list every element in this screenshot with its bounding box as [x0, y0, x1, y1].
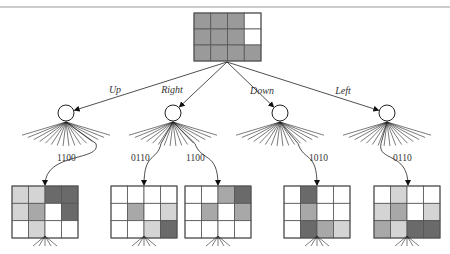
grid-cell — [194, 13, 211, 29]
grid-cell — [185, 221, 202, 238]
grid-cell — [211, 29, 228, 45]
grid-cell — [128, 221, 145, 238]
grid-cell — [284, 186, 301, 203]
child-left — [374, 186, 440, 238]
grid-cell — [391, 203, 408, 220]
fan-line — [66, 122, 98, 140]
grid-cell — [317, 221, 334, 238]
tile-code-label: 1100 — [57, 153, 76, 163]
grid-cell — [29, 203, 46, 220]
grid-cell — [185, 186, 202, 203]
grid-cell — [284, 203, 301, 220]
grid-cell — [161, 203, 178, 220]
chance-node-circle — [272, 105, 288, 121]
grid-cell — [235, 203, 252, 220]
grid-cell — [284, 221, 301, 238]
child-right-a — [111, 186, 177, 238]
grid-cell — [111, 221, 128, 238]
fan-line — [387, 122, 425, 137]
root-grid — [194, 13, 261, 61]
tile-code-label: 0110 — [131, 153, 150, 163]
grid-cell — [194, 29, 211, 45]
grid-cell — [29, 186, 46, 203]
child-right-b — [185, 186, 251, 238]
grid-cell — [45, 221, 62, 238]
grid-cell — [334, 203, 351, 220]
grid-cell — [218, 203, 235, 220]
grid-cell — [391, 186, 408, 203]
grid-cell — [12, 221, 29, 238]
action-edge-up — [75, 62, 227, 110]
action-label-left: Left — [334, 85, 351, 96]
grid-cell — [12, 186, 29, 203]
tile-code-label: 0110 — [393, 153, 412, 163]
tile-code-label: 1010 — [309, 153, 328, 163]
grid-cell — [407, 221, 424, 238]
fan-line — [242, 122, 280, 137]
fan-line — [280, 122, 312, 140]
grid-cell — [317, 203, 334, 220]
grid-cell — [235, 221, 252, 238]
grid-cell — [202, 186, 219, 203]
chance-node-circle — [165, 105, 181, 121]
child-down — [284, 186, 350, 238]
grid-cell — [62, 203, 79, 220]
grid-cell — [424, 221, 441, 238]
grid-cell — [391, 221, 408, 238]
grid-cell — [202, 203, 219, 220]
grid-cell — [128, 186, 145, 203]
tile-fan-1 — [129, 122, 217, 146]
grid-cell — [185, 203, 202, 220]
grid-cell — [228, 13, 245, 29]
tile-fan-3 — [343, 122, 431, 146]
grid-cell — [301, 186, 318, 203]
grid-cell — [144, 221, 161, 238]
grid-cell — [235, 186, 252, 203]
root-state-grid — [194, 13, 261, 61]
fan-line — [280, 122, 318, 137]
grid-cell — [317, 186, 334, 203]
grid-cell — [12, 203, 29, 220]
tile-branches: 11000110110010100110 — [45, 122, 412, 185]
fan-line — [28, 122, 66, 137]
grid-cell — [62, 221, 79, 238]
grid-cell — [374, 203, 391, 220]
grid-cell — [62, 186, 79, 203]
grid-cell — [424, 203, 441, 220]
action-label-up: Up — [109, 84, 121, 95]
grid-cell — [244, 29, 261, 45]
grid-cell — [218, 186, 235, 203]
tile-fan-0 — [22, 122, 110, 146]
grid-cell — [244, 45, 261, 61]
grid-cell — [228, 45, 245, 61]
grid-cell — [211, 45, 228, 61]
grid-cell — [194, 45, 211, 61]
grid-cell — [128, 203, 145, 220]
grid-cell — [144, 186, 161, 203]
grid-cell — [211, 13, 228, 29]
fan-line — [349, 122, 387, 137]
grid-cell — [111, 186, 128, 203]
grid-cell — [45, 203, 62, 220]
fan-line — [66, 122, 104, 137]
grid-cell — [407, 186, 424, 203]
chance-nodes — [22, 105, 431, 146]
grid-cell — [228, 29, 245, 45]
fan-line — [387, 122, 419, 140]
action-edge-right — [180, 62, 227, 107]
fan-line — [355, 122, 387, 140]
grid-cell — [244, 13, 261, 29]
grid-cell — [161, 186, 178, 203]
grid-cell — [334, 221, 351, 238]
fan-line — [34, 122, 66, 140]
grid-cell — [45, 186, 62, 203]
search-tree-diagram: UpRightDownLeft 11000110110010100110 — [0, 0, 450, 254]
child-up — [12, 186, 78, 238]
tile-fan-2 — [236, 122, 324, 146]
fan-line — [173, 122, 211, 137]
child-state-grids — [12, 186, 440, 246]
grid-cell — [301, 203, 318, 220]
action-edges: UpRightDownLeft — [75, 62, 379, 110]
tile-code-label: 1100 — [186, 153, 205, 163]
grid-cell — [407, 203, 424, 220]
